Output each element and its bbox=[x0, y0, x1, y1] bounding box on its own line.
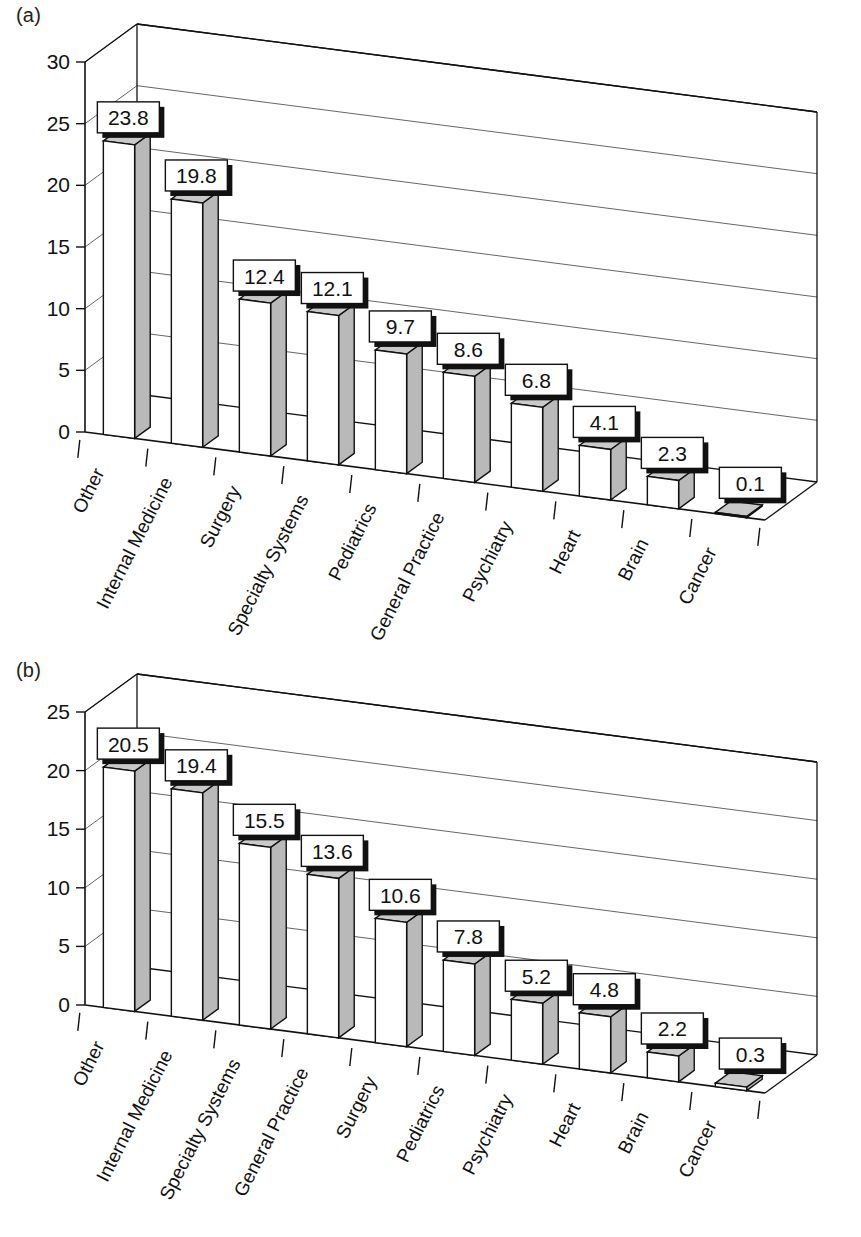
data-label-4: 9.7 bbox=[369, 311, 436, 347]
panel-label-b: (b) bbox=[16, 659, 41, 682]
data-label-4: 10.6 bbox=[369, 879, 436, 915]
x-axis-category-label: Heart bbox=[545, 526, 585, 578]
x-axis-category-label: Surgery bbox=[332, 1072, 381, 1141]
data-label-text: 4.1 bbox=[590, 411, 619, 434]
data-label-7: 4.8 bbox=[573, 974, 640, 1010]
data-label-text: 13.6 bbox=[312, 840, 353, 863]
y-axis-tick-label: 20 bbox=[47, 759, 70, 782]
data-label-7: 4.1 bbox=[573, 406, 640, 442]
y-axis-tick-label: 10 bbox=[47, 297, 70, 320]
bar-4 bbox=[375, 339, 422, 474]
x-axis-category-label: Cancer bbox=[674, 1116, 721, 1181]
y-axis-tick-label: 10 bbox=[47, 876, 70, 899]
x-axis-category-label: Psychiatry bbox=[458, 517, 517, 605]
data-label-text: 12.4 bbox=[244, 265, 285, 288]
bar-4 bbox=[375, 907, 422, 1047]
data-label-5: 8.6 bbox=[437, 333, 504, 369]
bar-3 bbox=[307, 863, 354, 1038]
y-axis-tick-label: 0 bbox=[58, 420, 70, 443]
x-axis-category-label: General Practice bbox=[366, 509, 449, 640]
data-label-text: 6.8 bbox=[522, 369, 551, 392]
data-label-text: 0.1 bbox=[736, 472, 765, 495]
x-axis-category-label: Internal Medicine bbox=[92, 1046, 176, 1184]
bar-chart-b: 051015202520.519.415.513.610.67.85.24.82… bbox=[0, 655, 861, 1237]
data-label-text: 2.3 bbox=[658, 442, 687, 465]
data-label-0: 20.5 bbox=[97, 728, 164, 764]
bar-0 bbox=[103, 756, 150, 1012]
data-label-text: 2.2 bbox=[658, 1017, 687, 1040]
data-label-9: 0.3 bbox=[719, 1038, 786, 1074]
y-axis-tick-label: 0 bbox=[58, 993, 70, 1016]
data-label-5: 7.8 bbox=[437, 921, 504, 957]
data-label-text: 8.6 bbox=[454, 338, 483, 361]
x-axis-category-label: Other bbox=[68, 464, 109, 516]
data-label-text: 20.5 bbox=[108, 733, 149, 756]
bar-3 bbox=[307, 300, 354, 465]
x-axis-category-label: Pediatrics bbox=[392, 1082, 449, 1166]
x-axis-category-label: Psychiatry bbox=[458, 1090, 517, 1178]
data-label-text: 12.1 bbox=[312, 277, 353, 300]
bar-chart-a: 05101520253023.819.812.412.19.78.66.84.1… bbox=[0, 0, 861, 640]
y-axis-tick-label: 20 bbox=[47, 173, 70, 196]
data-label-text: 4.8 bbox=[590, 978, 619, 1001]
bar-2 bbox=[239, 288, 286, 456]
data-label-text: 19.8 bbox=[176, 164, 217, 187]
x-axis-category-label: Heart bbox=[545, 1099, 585, 1151]
data-label-0: 23.8 bbox=[97, 102, 164, 138]
data-label-text: 15.5 bbox=[244, 809, 285, 832]
bar-6 bbox=[511, 988, 558, 1064]
y-axis-tick-label: 15 bbox=[47, 235, 70, 258]
bar-7 bbox=[579, 434, 626, 500]
data-label-6: 6.8 bbox=[505, 364, 572, 400]
data-label-1: 19.4 bbox=[165, 750, 232, 786]
y-axis-tick-label: 5 bbox=[58, 934, 70, 957]
panel-label-a: (a) bbox=[16, 4, 41, 27]
data-label-8: 2.3 bbox=[641, 437, 708, 473]
y-axis-tick-label: 5 bbox=[58, 358, 70, 381]
data-label-6: 5.2 bbox=[505, 960, 572, 996]
x-axis-category-label: Specialty Systems bbox=[223, 491, 312, 639]
data-label-3: 12.1 bbox=[301, 273, 368, 309]
data-label-text: 10.6 bbox=[380, 884, 421, 907]
bar-7 bbox=[579, 1001, 626, 1073]
data-label-text: 7.8 bbox=[454, 925, 483, 948]
bar-5 bbox=[443, 949, 490, 1056]
x-axis-category-label: Brain bbox=[614, 1108, 653, 1157]
data-label-text: 5.2 bbox=[522, 965, 551, 988]
data-label-1: 19.8 bbox=[165, 160, 232, 196]
bar-6 bbox=[511, 392, 558, 491]
y-axis-tick-label: 15 bbox=[47, 817, 70, 840]
x-axis-category-label: Other bbox=[68, 1037, 109, 1089]
x-axis-category-label: Internal Medicine bbox=[92, 473, 176, 611]
x-axis-category-label: Brain bbox=[614, 535, 653, 584]
data-label-2: 15.5 bbox=[233, 804, 300, 840]
data-label-3: 13.6 bbox=[301, 835, 368, 871]
x-axis-category-label: Surgery bbox=[196, 482, 245, 551]
bar-0 bbox=[103, 129, 150, 438]
data-label-2: 12.4 bbox=[233, 260, 300, 296]
data-label-text: 9.7 bbox=[386, 315, 415, 338]
x-axis-category-label: Pediatrics bbox=[324, 500, 381, 584]
bar-1 bbox=[171, 188, 218, 448]
data-label-8: 2.2 bbox=[641, 1013, 708, 1049]
bar-2 bbox=[239, 832, 286, 1029]
bar-1 bbox=[171, 777, 218, 1020]
y-axis-tick-label: 25 bbox=[47, 700, 70, 723]
data-label-text: 0.3 bbox=[736, 1043, 765, 1066]
bar-5 bbox=[443, 361, 490, 483]
x-axis-category-label: General Practice bbox=[230, 1064, 313, 1200]
y-axis-tick-label: 30 bbox=[47, 50, 70, 73]
data-label-text: 23.8 bbox=[108, 106, 149, 129]
chart-panel-a: (a) 05101520253023.819.812.412.19.78.66.… bbox=[0, 0, 861, 640]
chart-panel-b: (b) 051015202520.519.415.513.610.67.85.2… bbox=[0, 655, 861, 1237]
x-axis-category-label: Specialty Systems bbox=[155, 1055, 244, 1203]
y-axis-tick-label: 25 bbox=[47, 112, 70, 135]
data-label-text: 19.4 bbox=[176, 754, 217, 777]
data-label-9: 0.1 bbox=[719, 467, 786, 503]
x-axis-category-label: Cancer bbox=[674, 543, 721, 608]
